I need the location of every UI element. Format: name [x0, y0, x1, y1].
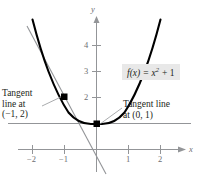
- formula-exponent: 2: [156, 66, 159, 73]
- y-axis-label: y: [91, 4, 95, 14]
- x-axis-arrow-icon: [178, 147, 186, 153]
- annotation-tangent-line-left: Tangent line at (−1, 2): [2, 88, 32, 120]
- annotation-left-line1: Tangent: [2, 88, 32, 99]
- annotation-left-line2: line at: [2, 99, 32, 110]
- formula-function-name: f(x): [127, 68, 140, 78]
- tangent-line-figure: −2 −1 1 2 2 3 4 x y Tangent line at (−1,…: [0, 0, 202, 176]
- x-axis-label: x: [189, 144, 193, 154]
- tangency-point-left-marker: [61, 94, 68, 101]
- y-tick-label-4: 4: [84, 40, 88, 50]
- annotation-left-line3: (−1, 2): [2, 109, 32, 120]
- leader-line-left: [42, 96, 63, 106]
- annotation-right-line2: at (0, 1): [123, 110, 170, 121]
- annotation-tangent-line-right: Tangent line at (0, 1): [123, 99, 170, 120]
- function-formula-box: f(x)=x2+ 1: [122, 64, 180, 80]
- formula-equals: =: [143, 68, 148, 78]
- y-axis-arrow-icon: [94, 16, 100, 23]
- x-tick-label-1: 1: [126, 154, 130, 164]
- y-tick-label-3: 3: [84, 66, 88, 76]
- x-tick-label--1: −1: [59, 154, 68, 164]
- formula-tail: + 1: [162, 68, 174, 78]
- annotation-right-line1: Tangent line: [123, 99, 170, 110]
- x-tick-label-2: 2: [158, 154, 162, 164]
- x-tick-label--2: −2: [27, 154, 36, 164]
- y-tick-label-2: 2: [84, 92, 88, 102]
- tangency-point-vertex-marker: [94, 121, 101, 128]
